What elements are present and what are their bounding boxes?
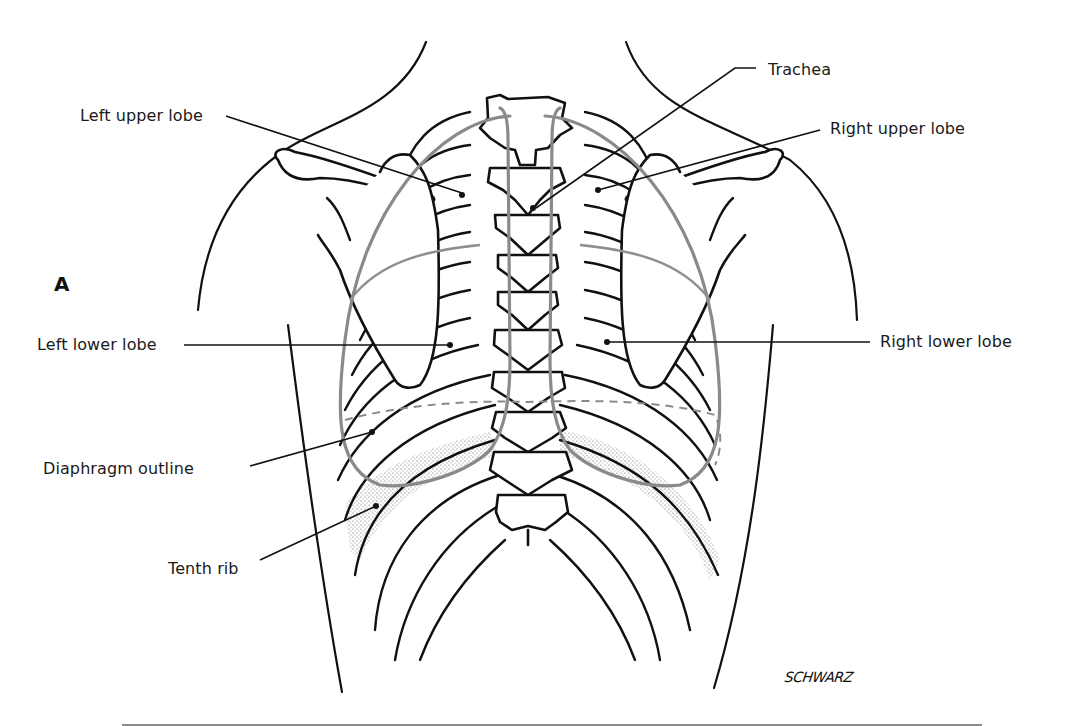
label-right-upper-lobe: Right upper lobe	[830, 120, 965, 138]
left-scapula	[275, 149, 438, 388]
label-tenth-rib: Tenth rib	[168, 560, 239, 578]
label-left-upper-lobe: Left upper lobe	[80, 107, 203, 125]
artist-signature: SCHWARZ	[784, 669, 854, 685]
label-trachea: Trachea	[768, 61, 831, 79]
panel-label: A	[54, 272, 69, 296]
right-scapula	[621, 149, 783, 388]
label-diaphragm-outline: Diaphragm outline	[43, 460, 194, 478]
label-right-lower-lobe: Right lower lobe	[880, 333, 1012, 351]
label-left-lower-lobe: Left lower lobe	[37, 336, 157, 354]
